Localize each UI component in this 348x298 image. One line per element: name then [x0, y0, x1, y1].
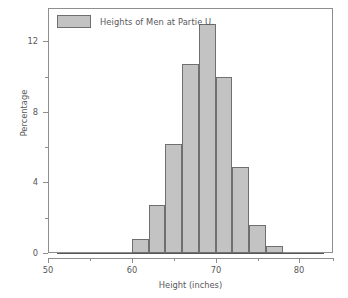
x-axis-tick-label: 60 [120, 265, 144, 275]
plot-area [48, 8, 333, 253]
legend-swatch-series-1 [57, 15, 91, 28]
x-axis-tick [132, 258, 133, 263]
y-axis-tick [43, 41, 48, 42]
y-axis-tick [43, 112, 48, 113]
x-axis-tick-label: 70 [204, 265, 228, 275]
x-axis-title: Height (inches) [48, 280, 333, 290]
y-axis-tick [43, 253, 48, 254]
y-axis-tick [43, 182, 48, 183]
y-axis-minor-tick [45, 147, 48, 148]
y-axis-tick-label: 12 [20, 36, 38, 46]
histogram-bar [232, 167, 249, 253]
y-axis-minor-tick [45, 218, 48, 219]
y-axis-title: Percentage [19, 68, 29, 158]
x-axis-minor-tick [174, 258, 175, 261]
zero-baseline [57, 253, 324, 254]
x-axis-minor-tick [333, 258, 334, 261]
histogram-bar [149, 205, 166, 253]
x-axis-tick [216, 258, 217, 263]
histogram-bar [132, 239, 149, 253]
histogram-bar [199, 24, 216, 253]
y-axis-tick-label: 4 [20, 177, 38, 187]
chart-legend: Heights of Men at Partie U. [57, 12, 220, 31]
x-axis-minor-tick [258, 258, 259, 261]
histogram-bar [266, 246, 283, 253]
histogram-bar [249, 225, 266, 253]
histogram-bar [216, 77, 233, 253]
histogram-bar [182, 64, 199, 253]
histogram-bar [165, 144, 182, 253]
legend-label-series-1: Heights of Men at Partie U. [100, 17, 214, 27]
x-axis-tick-label: 50 [36, 265, 60, 275]
y-axis-minor-tick [45, 77, 48, 78]
x-axis-minor-tick [90, 258, 91, 261]
y-axis-tick-label: 0 [20, 248, 38, 258]
chart-figure: 0481250607080 Percentage Height (inches)… [0, 0, 348, 298]
x-axis-tick [48, 258, 49, 263]
x-axis-tick-label: 80 [287, 265, 311, 275]
x-axis-tick [299, 258, 300, 263]
